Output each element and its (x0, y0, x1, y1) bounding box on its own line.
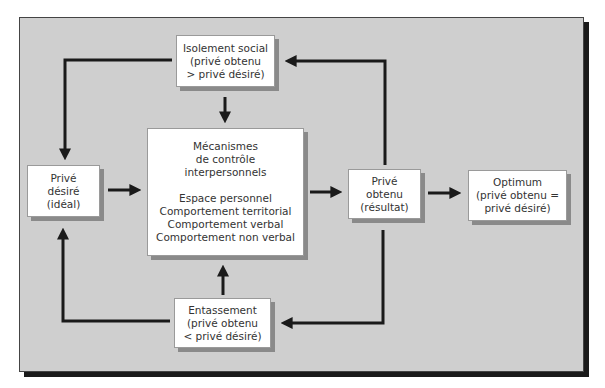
node-label: Isolement social (183, 42, 268, 55)
node-label: (privé obtenu = (476, 189, 559, 202)
node-label: Privé (371, 175, 397, 188)
node-title: de contrôle (196, 153, 255, 166)
node-label: (privé obtenu (190, 55, 261, 68)
node-prive-desire: Privé désiré (idéal) (27, 165, 100, 217)
node-label: (privé obtenu (187, 317, 258, 330)
node-label: > privé désiré) (186, 68, 264, 81)
node-item: Espace personnel (179, 192, 272, 205)
node-label: Privé (50, 172, 76, 185)
node-optimum: Optimum (privé obtenu = privé désiré) (468, 170, 567, 221)
node-label: désiré (47, 185, 79, 198)
node-isolement-social: Isolement social (privé obtenu > privé d… (176, 35, 275, 87)
node-label: Optimum (493, 176, 542, 189)
node-label: (idéal) (47, 198, 81, 211)
node-item: Comportement territorial (160, 205, 292, 218)
node-label: Entassement (188, 304, 257, 317)
node-label: obtenu (366, 188, 403, 201)
node-label: privé désiré) (484, 202, 550, 215)
node-label: (résultat) (360, 201, 408, 214)
node-title: interpersonnels (185, 166, 267, 179)
node-mecanismes-controle: Mécanismes de contrôle interpersonnels E… (147, 128, 304, 256)
arrow-prive-obtenu-to-isolement (290, 61, 385, 165)
node-prive-obtenu: Privé obtenu (résultat) (348, 169, 421, 219)
node-label: < privé désiré) (183, 330, 261, 343)
node-item: Comportement non verbal (156, 231, 295, 244)
node-title: Mécanismes (193, 140, 258, 153)
node-item: Comportement verbal (168, 218, 284, 231)
node-entassement: Entassement (privé obtenu < privé désiré… (174, 298, 271, 348)
